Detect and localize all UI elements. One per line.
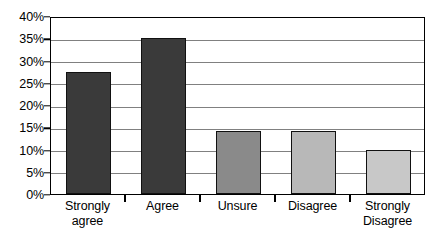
bar-chart: 0%5%10%15%20%25%30%35%40% StronglyagreeA…	[0, 0, 442, 244]
y-tick-label-35pct: 35%	[0, 33, 44, 46]
bar-strongly-agree	[66, 72, 111, 194]
y-tick-label-20pct: 20%	[0, 100, 44, 113]
y-tick-label-40pct: 40%	[0, 11, 44, 24]
x-category-label-line: Strongly	[350, 199, 425, 214]
y-tick-label-25pct: 25%	[0, 78, 44, 91]
bars-layer	[51, 18, 424, 194]
x-category-label-strongly-disagree: StronglyDisagree	[350, 199, 425, 228]
y-tick-label-15pct: 15%	[0, 122, 44, 135]
plot-area	[50, 17, 425, 195]
x-category-label-unsure: Unsure	[200, 199, 275, 214]
y-tick-label-0pct: 0%	[0, 189, 44, 202]
y-axis-tick-labels: 0%5%10%15%20%25%30%35%40%	[0, 17, 44, 195]
x-category-label-agree: Agree	[125, 199, 200, 214]
x-category-label-line: agree	[50, 214, 125, 229]
y-tick-label-5pct: 5%	[0, 167, 44, 180]
x-category-label-disagree: Disagree	[275, 199, 350, 214]
x-category-label-strongly-agree: Stronglyagree	[50, 199, 125, 228]
x-category-label-line: Disagree	[350, 214, 425, 229]
bar-agree	[141, 38, 186, 194]
bar-disagree	[291, 131, 336, 194]
bar-unsure	[216, 131, 261, 194]
x-category-label-line: Disagree	[275, 199, 350, 214]
x-category-label-line: Agree	[125, 199, 200, 214]
y-tick-label-10pct: 10%	[0, 144, 44, 157]
x-axis-category-labels: StronglyagreeAgreeUnsureDisagreeStrongly…	[50, 199, 425, 244]
x-category-label-line: Strongly	[50, 199, 125, 214]
x-category-label-line: Unsure	[200, 199, 275, 214]
y-tick-label-30pct: 30%	[0, 55, 44, 68]
bar-strongly-disagree	[366, 150, 411, 195]
